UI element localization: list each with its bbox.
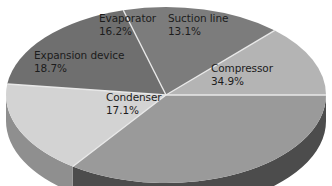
slice-label-suction-line-name: Suction line (168, 12, 228, 25)
slice-label-expansion-device: Expansion device 18.7% (34, 49, 124, 74)
slice-label-compressor-name: Compressor (211, 62, 273, 75)
slice-label-suction-line: Suction line 13.1% (168, 12, 228, 37)
slice-label-condenser-name: Condenser (106, 91, 162, 104)
slice-label-expansion-device-percent: 18.7% (34, 62, 124, 75)
slice-label-evaporator: Evaporator 16.2% (99, 12, 156, 37)
pie-chart: Evaporator 16.2% Suction line 13.1% Comp… (0, 0, 332, 186)
slice-label-expansion-device-name: Expansion device (34, 49, 124, 62)
slice-label-evaporator-percent: 16.2% (99, 25, 156, 38)
pie-chart-canvas (0, 0, 332, 186)
slice-label-condenser-percent: 17.1% (106, 104, 162, 117)
slice-label-suction-line-percent: 13.1% (168, 25, 228, 38)
slice-label-compressor-percent: 34.9% (211, 75, 273, 88)
slice-label-compressor: Compressor 34.9% (211, 62, 273, 87)
slice-label-evaporator-name: Evaporator (99, 12, 156, 25)
slice-label-condenser: Condenser 17.1% (106, 91, 162, 116)
